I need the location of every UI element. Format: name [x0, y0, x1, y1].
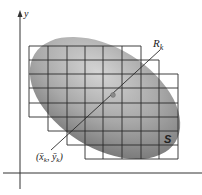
y-axis-arrow-icon [18, 10, 23, 17]
sample-point [111, 93, 116, 98]
region-label: S [164, 133, 172, 145]
diagram-canvas: y Rk S (x̄k, ȳk) [0, 0, 202, 195]
subrectangle-label: Rk [152, 37, 164, 52]
sample-point-label: (x̄k, ȳk) [36, 151, 63, 164]
y-axis-label: y [23, 8, 29, 19]
